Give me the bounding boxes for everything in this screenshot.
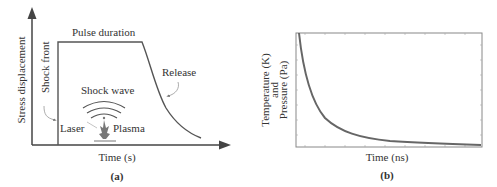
shock-front-pointer bbox=[44, 106, 55, 120]
panel-a: Pulse duration Shock front Release Shock… bbox=[15, 13, 225, 183]
decay-curve bbox=[299, 33, 481, 145]
y-axis-label-b-line3: Temperature (K) bbox=[259, 53, 272, 127]
x-axis-label-b: Time (ns) bbox=[366, 151, 409, 164]
shock-wave-icon bbox=[83, 102, 125, 119]
shock-front-label: Shock front bbox=[39, 41, 51, 93]
release-label: Release bbox=[162, 66, 196, 78]
caption-b: (b) bbox=[380, 169, 394, 182]
y-axis-label-a: Stress displacement bbox=[15, 36, 27, 123]
caption-a: (a) bbox=[111, 170, 124, 183]
plasma-label: Plasma bbox=[113, 122, 145, 134]
frame-ticks bbox=[296, 33, 482, 147]
laser-label: Laser bbox=[60, 122, 85, 134]
shock-wave-label: Shock wave bbox=[81, 84, 135, 96]
figure: Pulse duration Shock front Release Shock… bbox=[0, 0, 497, 187]
release-pointer bbox=[168, 82, 179, 96]
plot-frame-b bbox=[296, 33, 482, 147]
x-axis-label-a: Time (s) bbox=[98, 151, 136, 164]
laser-beam-icon bbox=[87, 122, 97, 128]
pulse-duration-label: Pulse duration bbox=[72, 26, 136, 38]
panel-b: Pressure (Pa) and Temperature (K) Time (… bbox=[259, 33, 482, 182]
